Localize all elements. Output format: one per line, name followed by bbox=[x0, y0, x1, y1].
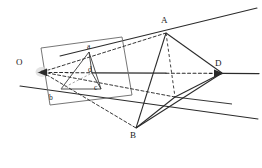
projector-O-C bbox=[42, 72, 175, 97]
label-O: O bbox=[16, 58, 23, 67]
label-B: B bbox=[130, 131, 136, 140]
label-A: A bbox=[161, 16, 168, 25]
large-edge-B-C bbox=[136, 97, 175, 128]
label-c: c bbox=[94, 84, 97, 92]
label-b: b bbox=[49, 94, 53, 102]
label-d: d bbox=[88, 66, 92, 74]
label-D: D bbox=[215, 59, 222, 68]
geometry-figure: O A B D a b c d bbox=[0, 0, 262, 168]
small-edge-b-d bbox=[61, 73, 92, 89]
large-edge-C-extension bbox=[175, 97, 232, 104]
principal-axis bbox=[38, 72, 259, 73]
large-edge-B-D bbox=[136, 73, 222, 128]
large-edge-A-B bbox=[136, 33, 166, 128]
projector-O-A bbox=[42, 33, 166, 72]
label-a: a bbox=[87, 43, 90, 51]
large-edge-A-D bbox=[166, 33, 222, 73]
small-edge-a-b bbox=[61, 52, 89, 89]
figure-canvas bbox=[0, 0, 262, 168]
projector-lines bbox=[42, 33, 175, 128]
large-edge-A-C bbox=[166, 33, 175, 97]
